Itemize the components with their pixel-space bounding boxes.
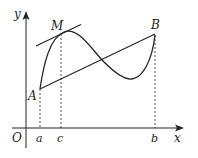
tick-c-label: c <box>57 132 63 145</box>
point-a-label: A <box>27 89 37 103</box>
origin-label: O <box>12 131 22 145</box>
point-b-label: B <box>150 18 160 32</box>
axes <box>12 18 178 148</box>
y-axis-label: y <box>13 7 21 21</box>
tick-a-label: a <box>36 132 43 145</box>
x-axis-label: x <box>174 131 181 145</box>
mean-value-theorem-diagram: y x O A M B a c b <box>0 0 198 158</box>
secant-line-ab <box>40 34 155 89</box>
tick-b-label: b <box>151 132 158 145</box>
point-m-label: M <box>50 19 64 33</box>
